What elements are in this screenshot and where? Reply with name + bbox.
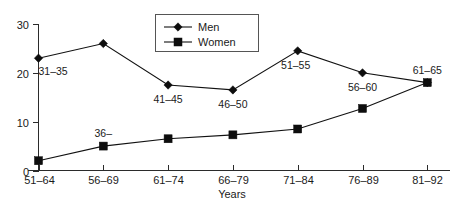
- y-tick-label: 10: [17, 117, 29, 129]
- men-point-label: 31–35: [39, 65, 68, 77]
- x-tick-label: 71–84: [283, 174, 314, 186]
- data-point-diamond: [358, 69, 366, 77]
- x-tick-label: 56–69: [88, 174, 119, 186]
- data-point-square: [99, 142, 107, 150]
- line-chart: 0102030 51–6456–6961–7466–7971–8476–8981…: [0, 0, 462, 209]
- chart-canvas: 0102030 51–6456–6961–7466–7971–8476–8981…: [0, 0, 462, 209]
- x-tick-label: 76–89: [348, 174, 379, 186]
- data-point-square: [164, 135, 172, 143]
- y-axis-tick-labels: 0102030: [17, 19, 29, 178]
- x-tick-label: 51–64: [24, 174, 55, 186]
- series-point-labels: 31–3541–4546–5051–5556–6061–6536–: [39, 59, 443, 139]
- x-axis-title: Years: [218, 188, 246, 200]
- data-point-diamond: [294, 47, 302, 55]
- men-point-label: 61–65: [413, 64, 442, 76]
- men-point-label: 41–45: [153, 93, 182, 105]
- x-tick-label: 66–79: [218, 174, 249, 186]
- x-tick-label: 81–92: [412, 174, 443, 186]
- men-point-label: 46–50: [218, 98, 247, 110]
- x-tick-label: 61–74: [153, 174, 184, 186]
- data-point-square: [359, 104, 367, 112]
- series-group: 31–3541–4546–5051–5556–6061–6536–: [34, 39, 442, 164]
- y-tick-label: 30: [17, 19, 29, 31]
- legend: MenWomen: [156, 15, 259, 52]
- legend-label-men: Men: [198, 21, 219, 33]
- data-point-diamond: [229, 86, 237, 94]
- data-point-diamond: [34, 54, 42, 62]
- data-point-square: [229, 131, 237, 139]
- y-axis-group: 0102030: [17, 19, 39, 178]
- y-tick-label: 20: [17, 68, 29, 80]
- data-point-square: [294, 125, 302, 133]
- x-axis-tick-labels: 51–6456–6961–7466–7971–8476–8981–92: [24, 174, 443, 186]
- x-axis-group: 51–6456–6961–7466–7971–8476–8981–92 Year…: [24, 165, 450, 200]
- legend-marker-women: [174, 38, 182, 46]
- data-point-diamond: [164, 81, 172, 89]
- men-point-label: 51–55: [281, 59, 310, 71]
- legend-label-women: Women: [198, 36, 236, 48]
- data-point-square: [35, 157, 43, 165]
- men-point-label: 56–60: [348, 81, 377, 93]
- y-axis-ticks: [33, 25, 39, 172]
- x-axis-ticks: [40, 165, 428, 171]
- women-point-label: 36–: [95, 127, 113, 139]
- data-point-diamond: [99, 39, 107, 47]
